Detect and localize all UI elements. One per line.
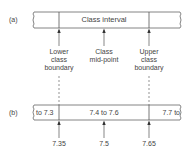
- value-upper-boundary: 7.65: [134, 140, 164, 148]
- value-mid-point: 7.5: [89, 140, 119, 148]
- segment-upper: 7.7 to: [152, 109, 180, 117]
- upper-class-boundary-label: Upper class boundary: [129, 48, 169, 72]
- dashed-connectors: [59, 76, 149, 105]
- segment-middle: 7.4 to 7.6: [60, 109, 148, 117]
- part-a-label: (a): [9, 16, 18, 23]
- value-arrows-b: [57, 121, 150, 139]
- part-b-label: (b): [9, 109, 18, 116]
- lower-class-boundary-label: Lower class boundary: [39, 48, 79, 72]
- class-mid-point-label: Class mid-point: [84, 48, 124, 64]
- value-lower-boundary: 7.35: [44, 140, 74, 148]
- segment-lower: to 7.3: [36, 109, 58, 117]
- boundary-arrows-a: [57, 29, 150, 47]
- class-interval-label: Class interval: [60, 16, 148, 24]
